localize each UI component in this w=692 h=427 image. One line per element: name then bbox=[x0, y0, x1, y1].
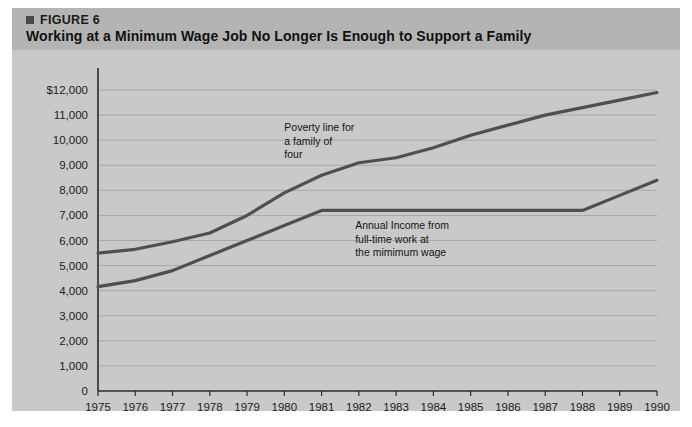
y-axis-tick-label: 6,000 bbox=[59, 235, 88, 247]
y-axis-tick-label: 5,000 bbox=[59, 260, 88, 272]
x-axis-tick-label: 1988 bbox=[570, 401, 596, 411]
figure-header-band: FIGURE 6 Working at a Minimum Wage Job N… bbox=[12, 8, 680, 50]
x-axis-tick-label: 1983 bbox=[383, 401, 409, 411]
y-axis-tick-label: 10,000 bbox=[53, 134, 88, 146]
annotation-line: four bbox=[284, 148, 303, 160]
figure-title: Working at a Minimum Wage Job No Longer … bbox=[26, 28, 531, 44]
x-axis-tick-label: 1990 bbox=[644, 401, 670, 411]
y-axis-tick-labels: $12,00011,00010,0009,0008,0007,0006,0005… bbox=[46, 84, 88, 397]
annotation-line: the mimimum wage bbox=[355, 246, 446, 258]
y-axis-tick-label: 1,000 bbox=[59, 360, 88, 372]
minimum-wage-annotation: Annual Income fromfull-time work atthe m… bbox=[355, 219, 449, 258]
chart-plot-area: $12,00011,00010,0009,0008,0007,0006,0005… bbox=[12, 50, 680, 411]
annotation-line: Poverty line for bbox=[284, 121, 355, 133]
x-axis-tick-label: 1986 bbox=[495, 401, 521, 411]
x-axis-tick-label: 1981 bbox=[309, 401, 335, 411]
x-axis-tick-label: 1989 bbox=[607, 401, 633, 411]
y-axis-tick-label: $12,000 bbox=[46, 84, 88, 96]
x-axis-tick-label: 1984 bbox=[421, 401, 447, 411]
annotation-line: a family of bbox=[284, 135, 332, 147]
y-axis-tick-label: 11,000 bbox=[54, 109, 88, 121]
x-axis-tick-label: 1985 bbox=[458, 401, 484, 411]
x-axis-tick-label: 1980 bbox=[272, 401, 298, 411]
line-chart-svg: $12,00011,00010,0009,0008,0007,0006,0005… bbox=[12, 50, 680, 411]
figure-panel: FIGURE 6 Working at a Minimum Wage Job N… bbox=[12, 8, 680, 411]
square-bullet-icon bbox=[26, 16, 34, 24]
y-axis-tick-label: 8,000 bbox=[59, 184, 88, 196]
annotation-line: Annual Income from bbox=[355, 219, 449, 231]
x-axis-tick-label: 1982 bbox=[346, 401, 372, 411]
figure-number-label: FIGURE 6 bbox=[40, 13, 100, 27]
y-axis-tick-label: 3,000 bbox=[59, 310, 88, 322]
chart-annotations: Poverty line fora family offourAnnual In… bbox=[284, 121, 449, 258]
y-axis-tick-label: 7,000 bbox=[59, 209, 88, 221]
annotation-line: full-time work at bbox=[355, 233, 429, 245]
poverty-annotation: Poverty line fora family offour bbox=[284, 121, 355, 160]
y-axis-tick-label: 9,000 bbox=[59, 159, 88, 171]
x-axis-tick-label: 1987 bbox=[532, 401, 558, 411]
figure-eyebrow: FIGURE 6 bbox=[26, 13, 100, 27]
y-axis-tick-label: 0 bbox=[82, 385, 88, 397]
y-axis-tick-label: 4,000 bbox=[59, 285, 88, 297]
y-axis-tick-label: 2,000 bbox=[59, 335, 88, 347]
x-axis-tick-label: 1979 bbox=[234, 401, 260, 411]
footer-artifact-text bbox=[26, 404, 206, 410]
